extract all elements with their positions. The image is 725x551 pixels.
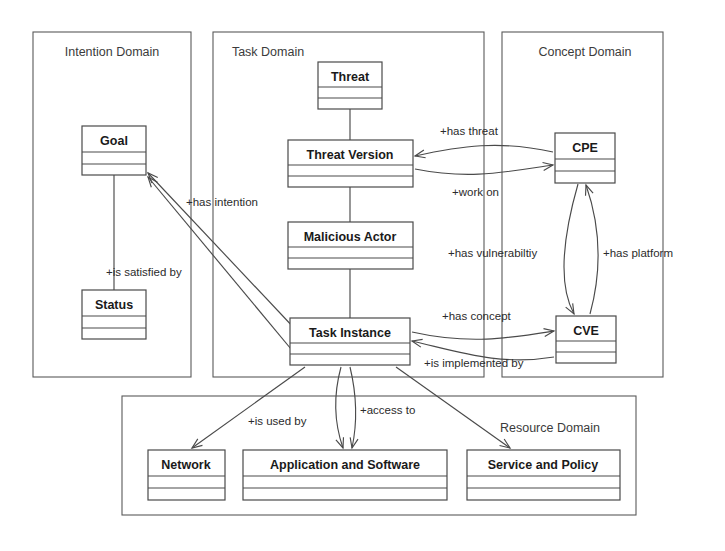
class-service-and-policy-label: Service and Policy bbox=[488, 458, 599, 472]
domain-intention-label: Intention Domain bbox=[65, 45, 160, 59]
class-malicious-actor[interactable]: Malicious Actor bbox=[288, 222, 413, 269]
edge-label-work-on: +work on bbox=[452, 186, 499, 198]
class-threat-version-label: Threat Version bbox=[307, 148, 394, 162]
class-threat-version[interactable]: Threat Version bbox=[288, 140, 413, 187]
class-network-label: Network bbox=[161, 458, 210, 472]
domain-resource-label: Resource Domain bbox=[500, 421, 600, 435]
class-status-label: Status bbox=[95, 298, 133, 312]
edge-label-is-satisfied-by: +is satisfied by bbox=[106, 266, 182, 278]
class-status[interactable]: Status bbox=[82, 290, 146, 339]
class-malicious-actor-label: Malicious Actor bbox=[304, 230, 397, 244]
class-threat[interactable]: Threat bbox=[318, 62, 382, 109]
class-task-instance-label: Task Instance bbox=[309, 326, 391, 340]
class-cve-label: CVE bbox=[573, 324, 599, 338]
class-goal-label: Goal bbox=[100, 134, 128, 148]
class-threat-label: Threat bbox=[331, 70, 370, 84]
class-application-and-software-label: Application and Software bbox=[270, 458, 420, 472]
domain-concept-label: Concept Domain bbox=[538, 45, 631, 59]
edge-label-access-to: +access to bbox=[360, 404, 415, 416]
class-cve[interactable]: CVE bbox=[556, 316, 616, 363]
uml-class-diagram: Intention Domain Task Domain Concept Dom… bbox=[0, 0, 725, 551]
edge-label-has-intention: +has intention bbox=[186, 196, 258, 208]
edge-label-has-threat: +has threat bbox=[440, 125, 499, 137]
edge-label-is-used-by: +is used by bbox=[248, 415, 307, 427]
class-task-instance[interactable]: Task Instance bbox=[290, 318, 410, 365]
class-network[interactable]: Network bbox=[148, 450, 225, 500]
class-cpe[interactable]: CPE bbox=[555, 133, 615, 183]
edge-label-has-vulnerabiltiy: +has vulnerabiltiy bbox=[448, 247, 537, 259]
edge-label-has-platform: +has platform bbox=[603, 247, 673, 259]
class-goal[interactable]: Goal bbox=[82, 126, 146, 175]
class-application-and-software[interactable]: Application and Software bbox=[243, 450, 447, 500]
edge-label-is-implemented-by: +is implemented by bbox=[424, 357, 524, 369]
class-cpe-label: CPE bbox=[572, 141, 598, 155]
edge-label-has-concept: +has concept bbox=[442, 310, 512, 322]
domain-task-label: Task Domain bbox=[232, 45, 304, 59]
class-service-and-policy[interactable]: Service and Policy bbox=[467, 450, 620, 500]
